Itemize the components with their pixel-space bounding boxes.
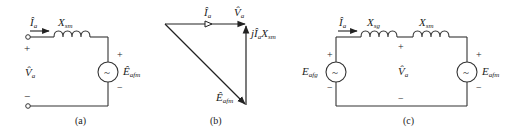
source-label: Êafm xyxy=(122,65,140,79)
terminal-top xyxy=(26,35,31,40)
eafm-label-c: Eafm xyxy=(481,65,499,79)
inductor-xsm-c xyxy=(413,31,449,37)
caption-a: (a) xyxy=(75,115,86,127)
va-label: V̂a xyxy=(234,6,245,20)
source-m-minus: − xyxy=(476,82,482,93)
phasor-eafm xyxy=(165,24,245,104)
figure-canvas: ~ Îa Xsm + V̂a − + Êafm − (a) Îa V̂a jÎa… xyxy=(0,0,526,137)
xsg-label: Xsg xyxy=(366,16,380,30)
current-label-c: Îa xyxy=(338,16,347,30)
terminal-bottom xyxy=(26,104,31,109)
eafg-label: Eafg xyxy=(301,65,318,79)
panel-b-phasor-diagram xyxy=(165,21,246,105)
caption-c: (c) xyxy=(403,115,414,127)
inductor-xsg xyxy=(361,31,397,37)
sine-glyph-m: ~ xyxy=(463,66,469,78)
source-g-plus: + xyxy=(327,49,333,60)
source-minus: − xyxy=(117,82,123,93)
ia-label: Îa xyxy=(203,6,212,20)
sine-glyph: ~ xyxy=(104,66,110,78)
source-m-plus: + xyxy=(476,49,482,60)
plus-sign: + xyxy=(24,42,30,54)
minus-sign: − xyxy=(24,90,30,102)
caption-b: (b) xyxy=(210,115,222,127)
eafm-label: Êafm xyxy=(215,91,233,105)
current-label: Îa xyxy=(29,16,38,30)
reactance-label: Xsm xyxy=(57,16,73,30)
sine-glyph-g: ~ xyxy=(332,66,338,78)
terminal-voltage-label: V̂a xyxy=(25,66,36,80)
phasor-ia-arrowhead xyxy=(205,21,212,27)
va-minus: − xyxy=(398,93,404,104)
va-plus: + xyxy=(398,41,404,52)
va-label-c: V̂a xyxy=(398,65,409,79)
source-plus: + xyxy=(117,49,123,60)
xsm-label-c: Xsm xyxy=(418,16,434,30)
source-g-minus: − xyxy=(327,82,333,93)
inductor-xsm xyxy=(54,31,90,37)
drop-label: jÎaXsm xyxy=(249,27,276,41)
